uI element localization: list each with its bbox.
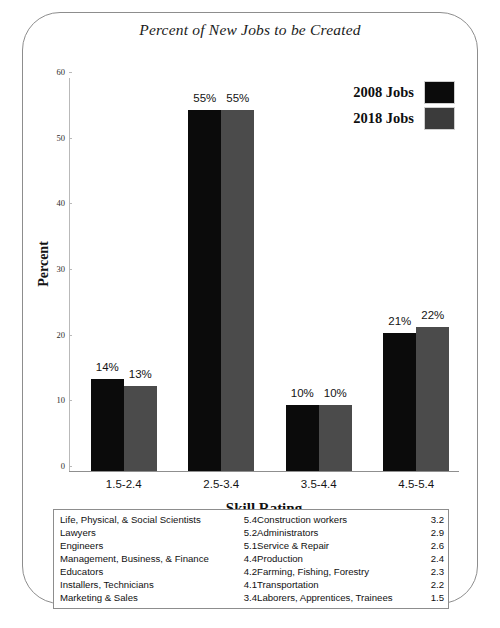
occupation-value: 5.4 xyxy=(231,513,257,526)
occupation-value: 5.1 xyxy=(231,539,257,552)
table-row: Life, Physical, & Social Scientists5.4Co… xyxy=(60,513,444,526)
bar-2008 xyxy=(188,110,221,471)
figure-panel: Percent of New Jobs to be Created Percen… xyxy=(22,12,478,604)
occupation-name: Engineers xyxy=(60,539,231,552)
legend-label-2018: 2018 Jobs xyxy=(353,110,414,127)
bar-value-label: 55% xyxy=(218,92,258,104)
bar-2008 xyxy=(91,379,124,471)
y-tick-label: 10 xyxy=(39,396,65,405)
legend-swatch-2018 xyxy=(424,107,455,130)
x-tick-label: 3.5-4.4 xyxy=(274,478,364,490)
bar-group: 55%55% xyxy=(188,77,254,471)
bar-group: 21%22% xyxy=(383,77,449,471)
table-row: Engineers5.1Service & Repair2.6 xyxy=(60,539,444,552)
bar-value-label: 13% xyxy=(120,368,160,380)
occupation-name: Educators xyxy=(60,565,231,578)
y-tick-label: 50 xyxy=(39,134,65,143)
legend-swatch-2008 xyxy=(424,81,455,104)
chart-legend: 2008 Jobs 2018 Jobs xyxy=(305,79,455,131)
y-tick-mark xyxy=(69,203,72,204)
occupation-value: 2.2 xyxy=(420,578,444,591)
bar-2008 xyxy=(383,333,416,471)
occupation-name: Life, Physical, & Social Scientists xyxy=(60,513,231,526)
occupation-value: 3.2 xyxy=(420,513,444,526)
y-tick-label: 30 xyxy=(39,265,65,274)
occupation-name: Marketing & Sales xyxy=(60,591,231,604)
occupations-grid: Life, Physical, & Social Scientists5.4Co… xyxy=(60,513,444,604)
x-tick-label: 1.5-2.4 xyxy=(79,478,169,490)
x-axis-line xyxy=(69,471,459,472)
table-row: Installers, Technicians4.1Transportation… xyxy=(60,578,444,591)
bar-value-label: 22% xyxy=(413,309,453,321)
table-row: Lawyers5.2Administrators2.9 xyxy=(60,526,444,539)
table-row: Educators4.2Farming, Fishing, Forestry2.… xyxy=(60,565,444,578)
y-tick-label: 60 xyxy=(39,68,65,77)
occupation-name: Installers, Technicians xyxy=(60,578,231,591)
occupation-value: 4.2 xyxy=(231,565,257,578)
y-tick-mark xyxy=(69,269,72,270)
legend-item-2018: 2018 Jobs xyxy=(305,105,455,131)
bar-2018 xyxy=(221,110,254,471)
y-tick-mark xyxy=(69,72,72,73)
occupation-name: Service & Repair xyxy=(257,539,420,552)
occupation-value: 4.4 xyxy=(231,552,257,565)
y-axis-title: Percent xyxy=(36,241,52,287)
occupation-value: 1.5 xyxy=(420,591,444,604)
y-tick-label: 40 xyxy=(39,199,65,208)
occupation-name: Lawyers xyxy=(60,526,231,539)
legend-item-2008: 2008 Jobs xyxy=(305,79,455,105)
occupation-name: Transportation xyxy=(257,578,420,591)
occupation-value: 2.9 xyxy=(420,526,444,539)
occupation-name: Laborers, Apprentices, Trainees xyxy=(257,591,420,604)
y-tick-mark xyxy=(69,138,72,139)
x-tick-label: 4.5-5.4 xyxy=(371,478,461,490)
occupation-name: Administrators xyxy=(257,526,420,539)
occupations-table: Life, Physical, & Social Scientists5.4Co… xyxy=(53,509,449,609)
occupation-value: 4.1 xyxy=(231,578,257,591)
bar-2018 xyxy=(319,405,352,471)
y-tick-label: 0 xyxy=(39,462,65,471)
occupation-value: 5.2 xyxy=(231,526,257,539)
y-tick-label: 20 xyxy=(39,331,65,340)
occupation-name: Construction workers xyxy=(257,513,420,526)
occupation-name: Farming, Fishing, Forestry xyxy=(257,565,420,578)
table-row: Management, Business, & Finance4.4Produc… xyxy=(60,552,444,565)
bar-value-label: 10% xyxy=(315,387,355,399)
table-row: Marketing & Sales3.4Laborers, Apprentice… xyxy=(60,591,444,604)
occupation-value: 3.4 xyxy=(231,591,257,604)
occupation-value: 2.6 xyxy=(420,539,444,552)
occupation-name: Management, Business, & Finance xyxy=(60,552,231,565)
bar-group: 10%10% xyxy=(286,77,352,471)
bar-2018 xyxy=(416,327,449,471)
bar-2018 xyxy=(124,386,157,471)
y-tick-mark xyxy=(69,335,72,336)
legend-label-2008: 2008 Jobs xyxy=(353,84,414,101)
y-tick-mark xyxy=(69,400,72,401)
bar-group: 14%13% xyxy=(91,77,157,471)
y-tick-mark xyxy=(69,466,72,467)
occupation-value: 2.4 xyxy=(420,552,444,565)
chart-title: Percent of New Jobs to be Created xyxy=(23,21,477,39)
x-tick-label: 2.5-3.4 xyxy=(176,478,266,490)
occupation-name: Production xyxy=(257,552,420,565)
occupation-value: 2.3 xyxy=(420,565,444,578)
bar-2008 xyxy=(286,405,319,471)
